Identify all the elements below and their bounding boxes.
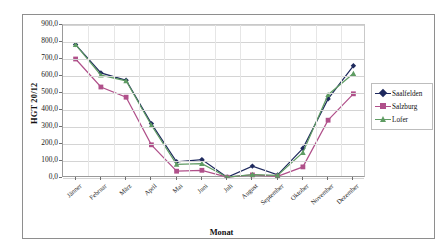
x-tick-mark [150, 177, 151, 180]
x-tick-mark [251, 177, 252, 180]
y-tick-label: 400,0 [0, 105, 58, 112]
y-tick-mark [59, 143, 62, 144]
legend-item-saalfelden[interactable]: Saalfelden [374, 87, 430, 100]
legend-key-square-icon [375, 101, 391, 112]
legend-marker [380, 103, 386, 109]
y-tick-mark [59, 41, 62, 42]
gridline [63, 76, 364, 77]
legend-item-salzburg[interactable]: Salzburg [374, 100, 430, 113]
x-tick-mark [125, 177, 126, 180]
y-tick-mark [59, 126, 62, 127]
vertical-gridline [114, 25, 115, 176]
y-tick-label: 600,0 [0, 71, 58, 78]
legend-label: Saalfelden [391, 90, 422, 98]
legend-label: Salzburg [391, 103, 417, 111]
y-tick-mark [59, 58, 62, 59]
chart-legend: SaalfeldenSalzburgLofer [371, 83, 433, 130]
legend-label: Lofer [391, 116, 408, 124]
chart-figure: HGT 20/12 900,0800,0700,0600,0500,0400,0… [0, 0, 443, 252]
x-tick-mark [75, 177, 76, 180]
data-point [326, 118, 331, 123]
legend-marker [379, 89, 387, 97]
y-tick-mark [59, 24, 62, 25]
gridline [63, 59, 364, 60]
vertical-gridline [139, 25, 140, 176]
x-tick-mark [302, 177, 303, 180]
data-point [174, 169, 179, 174]
x-tick-mark [352, 177, 353, 180]
data-point [124, 95, 129, 100]
vertical-gridline [215, 25, 216, 176]
vertical-gridline [88, 25, 89, 176]
gridline [63, 161, 364, 162]
y-tick-label: 500,0 [0, 88, 58, 95]
x-tick-mark [327, 177, 328, 180]
x-tick-mark [277, 177, 278, 180]
vertical-gridline [316, 25, 317, 176]
y-tick-mark [59, 160, 62, 161]
x-tick-mark [226, 177, 227, 180]
x-tick-mark [176, 177, 177, 180]
y-tick-mark [59, 92, 62, 93]
y-tick-label: 300,0 [0, 122, 58, 129]
x-tick-mark [201, 177, 202, 180]
gridline [63, 93, 364, 94]
y-tick-mark [59, 109, 62, 110]
data-point [200, 168, 205, 173]
vertical-gridline [189, 25, 190, 176]
data-point [301, 165, 306, 170]
data-point [99, 85, 104, 90]
legend-item-lofer[interactable]: Lofer [374, 113, 430, 126]
gridline [63, 127, 364, 128]
y-tick-label: 200,0 [0, 139, 58, 146]
y-tick-mark [59, 177, 62, 178]
vertical-gridline [265, 25, 266, 176]
legend-key-diamond-icon [375, 88, 391, 99]
vertical-gridline [290, 25, 291, 176]
legend-marker [380, 116, 386, 122]
y-tick-label: 800,0 [0, 37, 58, 44]
gridline [63, 178, 364, 179]
data-point [250, 163, 255, 168]
y-tick-label: 100,0 [0, 156, 58, 163]
vertical-gridline [240, 25, 241, 176]
gridline [63, 42, 364, 43]
plot-area [62, 24, 365, 177]
vertical-gridline [164, 25, 165, 176]
y-tick-label: 900,0 [0, 20, 58, 27]
gridline [63, 144, 364, 145]
x-axis-title: Monat [0, 228, 443, 237]
legend-key-triangle-icon [375, 114, 391, 125]
y-tick-mark [59, 75, 62, 76]
x-tick-mark [100, 177, 101, 180]
gridline [63, 110, 364, 111]
vertical-gridline [341, 25, 342, 176]
y-tick-label: 700,0 [0, 54, 58, 61]
y-tick-label: 0,0 [0, 173, 58, 180]
gridline [63, 25, 364, 26]
